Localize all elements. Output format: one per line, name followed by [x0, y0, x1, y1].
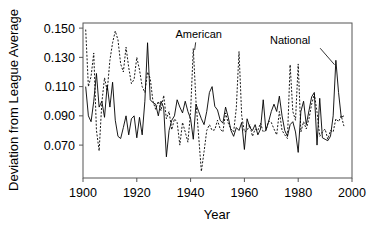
plot-frame [83, 23, 352, 178]
annotation-leader-line-national [320, 48, 334, 64]
x-axis-ticks: 190019201940196019802000 [69, 178, 366, 200]
annotation-layer: AmericanNational [175, 28, 334, 64]
x-tick-label: 1900 [69, 186, 97, 200]
x-axis-label: Year [204, 207, 231, 222]
x-tick-label: 1960 [230, 186, 258, 200]
deviation-from-league-average-chart: 0.0700.0900.1100.1300.150 19001920194019… [0, 0, 381, 236]
y-tick-label: 0.130 [44, 51, 75, 65]
y-tick-label: 0.110 [45, 80, 75, 94]
x-tick-label: 1940 [177, 186, 205, 200]
annotation-leader-line-american [195, 42, 196, 50]
x-tick-label: 2000 [338, 186, 366, 200]
annotation-label-national: National [270, 34, 310, 46]
series-line-american [86, 30, 344, 172]
series-line-national [86, 43, 344, 157]
y-tick-label: 0.070 [44, 139, 75, 153]
y-tick-label: 0.150 [44, 22, 75, 36]
x-tick-label: 1920 [123, 186, 151, 200]
annotation-label-american: American [175, 28, 221, 40]
x-tick-label: 1980 [284, 186, 312, 200]
y-axis-ticks: 0.0700.0900.1100.1300.150 [44, 22, 83, 153]
y-axis-label: Deviation from League Average [6, 9, 21, 191]
data-series-layer [86, 30, 344, 172]
y-tick-label: 0.090 [44, 109, 75, 123]
chart-figure: 0.0700.0900.1100.1300.150 19001920194019… [0, 0, 381, 236]
plot-frame-border [83, 23, 352, 178]
